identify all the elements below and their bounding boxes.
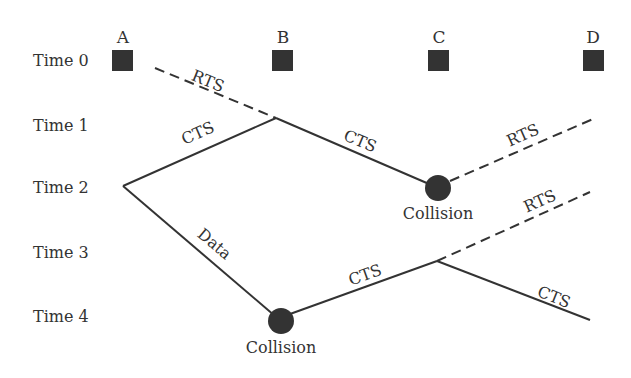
time-label-2: Time 2 <box>33 178 89 197</box>
edge-rts-c-to-d-2 <box>437 192 590 261</box>
rts-cts-collision-diagram: Time 0 Time 1 Time 2 Time 3 Time 4 A B C… <box>0 0 631 378</box>
time-label-3: Time 3 <box>33 243 89 262</box>
node-a-square-icon <box>112 50 133 71</box>
edge-label-rts-3: RTS <box>521 186 559 217</box>
collision-b-icon <box>268 308 294 334</box>
node-label-b: B <box>277 27 290 47</box>
node-label-a: A <box>116 27 130 47</box>
node-c-square-icon <box>428 50 449 71</box>
node-b-square-icon <box>272 50 293 71</box>
edge-label-cts-4: CTS <box>535 282 574 312</box>
edge-data-a-to-b <box>123 186 275 316</box>
time-label-4: Time 4 <box>33 307 89 326</box>
edge-label-rts-1: RTS <box>189 66 227 96</box>
time-label-0: Time 0 <box>33 51 89 70</box>
collision-label-c: Collision <box>403 204 474 223</box>
edge-cts-c-to-d <box>437 261 590 320</box>
node-label-c: C <box>432 27 445 47</box>
edge-label-cts-2: CTS <box>341 126 380 157</box>
edge-label-data: Data <box>194 224 236 263</box>
edge-label-rts-2: RTS <box>504 120 542 151</box>
node-d-square-icon <box>583 50 604 71</box>
edge-label-cts-3: CTS <box>346 260 384 289</box>
time-label-1: Time 1 <box>33 116 89 135</box>
collision-label-b: Collision <box>246 338 317 357</box>
edge-label-cts-1: CTS <box>178 117 217 148</box>
node-label-d: D <box>586 27 600 47</box>
collision-c-icon <box>425 175 451 201</box>
